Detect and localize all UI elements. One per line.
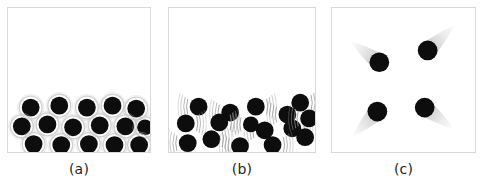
particle-liquid [231,137,249,152]
vibration-arc-icon [297,111,298,127]
particle-liquid [179,134,197,152]
panel-gas-canvas [332,8,475,152]
vibration-arc-icon [283,137,284,152]
particle-solid [39,116,57,134]
particle-solid [127,100,145,118]
vibration-arc-icon [178,93,180,120]
vibration-arc-icon [187,99,188,115]
states-of-matter-figure: (a) (b) (c) [0,0,483,185]
particle-liquid [247,98,265,116]
vibration-arc-icon [286,135,287,152]
particle-gas [368,102,388,122]
particle-group [231,112,258,137]
particle-liquid [291,94,309,112]
caption-panel-a: (a) [7,156,151,182]
vibration-arc-icon [314,93,315,112]
particle-liquid [203,130,221,148]
particle-solid [104,97,122,115]
panel-solid-canvas [8,8,150,152]
vibration-arc-icon [173,133,174,152]
vibration-arc-icon [170,132,172,152]
panel-liquid [168,7,316,153]
particle-liquid [296,128,314,146]
particle-liquid [243,116,259,132]
vibration-arc-icon [199,114,200,133]
particle-liquid [210,114,228,132]
particle-solid [25,135,43,152]
particle-gas [415,98,435,118]
caption-panel-b: (b) [168,156,316,182]
particle-solid [52,136,70,152]
vibration-arc-icon [176,135,177,151]
vibration-arc-icon [311,95,312,111]
particle-liquid [300,110,315,128]
particle-group [415,98,460,137]
vibration-arc-icon [240,117,241,131]
particle-gas [418,41,438,61]
vibration-arc-icon [184,97,185,116]
particle-solid [130,136,148,152]
caption-panel-c: (c) [331,156,476,182]
particle-group [345,102,387,144]
particle-group [60,114,86,140]
particle-group [418,18,462,61]
particle-group [169,130,197,152]
vibration-arc-icon [181,95,183,118]
particle-solid [50,97,68,115]
particle-gas [369,52,389,72]
vibration-arc-icon [237,115,238,133]
panel-liquid-canvas [169,8,315,152]
particle-liquid [177,115,195,133]
panel-solid [7,7,151,153]
vibration-arc-icon [219,133,221,152]
panel-gas [331,7,476,153]
vibration-arc-icon [197,116,198,132]
particle-solid [22,99,40,117]
particle-group [247,93,276,120]
particle-group [344,33,389,72]
vibration-arc-icon [202,112,204,135]
